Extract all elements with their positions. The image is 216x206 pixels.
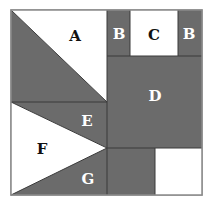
label-d: D (148, 87, 161, 105)
label-c: C (148, 26, 160, 44)
label-e: E (81, 112, 92, 130)
label-a: A (68, 27, 81, 45)
quilt-block-diagram: A B C B D E F G (0, 0, 216, 206)
bottom-dark-square (107, 148, 155, 195)
label-b-left: B (113, 25, 126, 43)
bottom-white-square (155, 148, 202, 195)
label-b-right: B (183, 25, 196, 43)
label-g: G (82, 170, 95, 188)
label-f: F (37, 140, 48, 158)
